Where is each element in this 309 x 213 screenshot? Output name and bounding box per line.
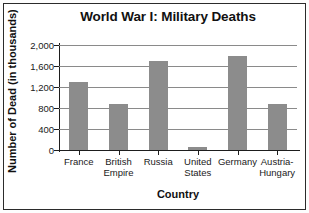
y-axis-tick-label: 2,000 — [30, 40, 54, 51]
y-axis-tick-label: 400 — [38, 124, 54, 135]
gridline — [59, 45, 297, 46]
x-axis-category-label: Austria- Hungary — [257, 157, 297, 178]
gridline — [59, 108, 297, 109]
y-axis-tick — [54, 87, 59, 88]
x-axis-tick — [79, 150, 80, 155]
y-axis-tick-labels: 04008001,2001,6002,000 — [16, 45, 54, 150]
gridline — [59, 87, 297, 88]
bar — [109, 104, 128, 150]
x-axis-tick — [198, 150, 199, 155]
y-axis-tick-label: 1,600 — [30, 61, 54, 72]
bar — [268, 104, 287, 150]
y-axis-tick — [54, 108, 59, 109]
gridline — [59, 66, 297, 67]
x-axis-tick — [158, 150, 159, 155]
bar — [149, 61, 168, 150]
y-axis-tick — [54, 66, 59, 67]
y-axis-tick — [54, 129, 59, 130]
y-axis-tick — [54, 45, 59, 46]
x-axis-line — [59, 150, 300, 151]
x-axis-category-label: Russia — [138, 157, 178, 168]
y-axis-tick-label: 800 — [38, 103, 54, 114]
x-axis-category-label: Germany — [218, 157, 258, 168]
chart-title: World War I: Military Deaths — [40, 9, 296, 24]
bar — [69, 82, 88, 150]
gridline — [59, 129, 297, 130]
x-axis-title: Country — [59, 188, 297, 200]
chart-figure: World War I: Military Deaths Number of D… — [0, 0, 309, 213]
plot-area — [59, 45, 297, 150]
x-axis-tick — [277, 150, 278, 155]
x-axis-category-label: United States — [178, 157, 218, 178]
bar — [228, 56, 247, 151]
x-axis-category-label: France — [59, 157, 99, 168]
x-axis-category-label: British Empire — [99, 157, 139, 178]
x-axis-tick — [238, 150, 239, 155]
y-axis-tick-label: 1,200 — [30, 82, 54, 93]
x-axis-tick — [119, 150, 120, 155]
